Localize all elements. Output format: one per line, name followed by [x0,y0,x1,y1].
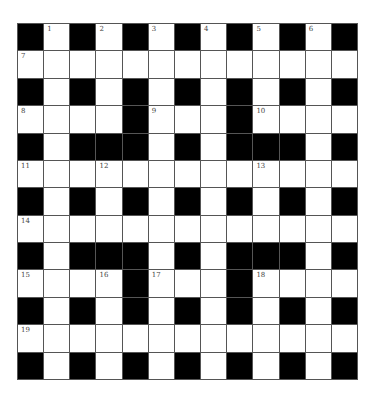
answer-cell[interactable] [253,298,278,324]
answer-cell[interactable] [306,106,331,132]
answer-cell[interactable]: 7 [18,51,43,77]
answer-cell[interactable]: 4 [201,24,226,50]
answer-cell[interactable] [280,270,305,296]
answer-cell[interactable] [149,188,174,214]
answer-cell[interactable]: 12 [96,161,121,187]
answer-cell[interactable] [149,298,174,324]
answer-cell[interactable] [149,79,174,105]
answer-cell[interactable] [227,216,252,242]
answer-cell[interactable] [306,51,331,77]
answer-cell[interactable] [201,298,226,324]
answer-cell[interactable] [280,106,305,132]
answer-cell[interactable] [306,353,331,379]
answer-cell[interactable] [44,188,69,214]
answer-cell[interactable] [70,325,95,351]
answer-cell[interactable]: 16 [96,270,121,296]
answer-cell[interactable] [227,161,252,187]
answer-cell[interactable] [96,216,121,242]
answer-cell[interactable] [70,51,95,77]
answer-cell[interactable]: 3 [149,24,174,50]
answer-cell[interactable]: 17 [149,270,174,296]
answer-cell[interactable] [96,51,121,77]
answer-cell[interactable] [253,79,278,105]
answer-cell[interactable]: 18 [253,270,278,296]
answer-cell[interactable] [70,270,95,296]
answer-cell[interactable] [149,51,174,77]
answer-cell[interactable]: 10 [253,106,278,132]
answer-cell[interactable] [123,161,148,187]
answer-cell[interactable] [201,216,226,242]
answer-cell[interactable] [253,325,278,351]
answer-cell[interactable] [306,216,331,242]
answer-cell[interactable] [175,216,200,242]
answer-cell[interactable] [149,134,174,160]
answer-cell[interactable] [306,298,331,324]
answer-cell[interactable]: 15 [18,270,43,296]
answer-cell[interactable] [227,51,252,77]
answer-cell[interactable] [227,325,252,351]
answer-cell[interactable] [253,51,278,77]
answer-cell[interactable] [175,106,200,132]
answer-cell[interactable] [332,270,357,296]
answer-cell[interactable]: 19 [18,325,43,351]
answer-cell[interactable] [44,216,69,242]
answer-cell[interactable] [96,188,121,214]
answer-cell[interactable] [149,325,174,351]
answer-cell[interactable] [70,106,95,132]
answer-cell[interactable] [44,79,69,105]
answer-cell[interactable] [332,216,357,242]
answer-cell[interactable] [201,243,226,269]
answer-cell[interactable] [332,325,357,351]
answer-cell[interactable] [306,325,331,351]
answer-cell[interactable]: 2 [96,24,121,50]
answer-cell[interactable] [201,325,226,351]
answer-cell[interactable] [306,188,331,214]
answer-cell[interactable] [44,270,69,296]
answer-cell[interactable] [70,216,95,242]
answer-cell[interactable]: 9 [149,106,174,132]
answer-cell[interactable] [96,106,121,132]
answer-cell[interactable]: 11 [18,161,43,187]
answer-cell[interactable] [123,216,148,242]
answer-cell[interactable] [175,325,200,351]
answer-cell[interactable] [149,353,174,379]
answer-cell[interactable] [306,79,331,105]
answer-cell[interactable] [332,106,357,132]
answer-cell[interactable] [123,51,148,77]
answer-cell[interactable] [201,79,226,105]
answer-cell[interactable] [96,325,121,351]
answer-cell[interactable] [201,51,226,77]
answer-cell[interactable] [149,216,174,242]
answer-cell[interactable] [201,134,226,160]
answer-cell[interactable]: 1 [44,24,69,50]
answer-cell[interactable] [70,161,95,187]
answer-cell[interactable] [201,161,226,187]
answer-cell[interactable] [44,161,69,187]
answer-cell[interactable]: 6 [306,24,331,50]
answer-cell[interactable] [253,188,278,214]
answer-cell[interactable]: 5 [253,24,278,50]
answer-cell[interactable] [44,325,69,351]
answer-cell[interactable] [44,51,69,77]
answer-cell[interactable] [96,79,121,105]
answer-cell[interactable] [44,243,69,269]
answer-cell[interactable] [280,325,305,351]
answer-cell[interactable] [332,51,357,77]
answer-cell[interactable] [201,106,226,132]
answer-cell[interactable] [96,353,121,379]
answer-cell[interactable] [253,216,278,242]
answer-cell[interactable] [149,161,174,187]
answer-cell[interactable] [280,161,305,187]
answer-cell[interactable] [280,51,305,77]
answer-cell[interactable] [175,161,200,187]
answer-cell[interactable] [175,51,200,77]
answer-cell[interactable] [332,161,357,187]
answer-cell[interactable]: 14 [18,216,43,242]
answer-cell[interactable] [306,134,331,160]
answer-cell[interactable] [253,353,278,379]
answer-cell[interactable] [44,298,69,324]
answer-cell[interactable] [44,353,69,379]
answer-cell[interactable] [149,243,174,269]
answer-cell[interactable] [306,270,331,296]
answer-cell[interactable] [306,243,331,269]
